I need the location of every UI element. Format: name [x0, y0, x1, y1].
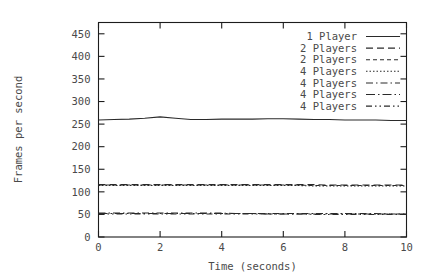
legend-label-3: 4 Players — [300, 65, 357, 77]
x-tick-label: 2 — [157, 241, 163, 253]
x-tick-label: 6 — [280, 241, 286, 253]
plot-area: 050100150200250300350400450 0246810 1 Pl… — [0, 0, 426, 276]
y-tick-label: 400 — [72, 50, 91, 62]
y-tick-label: 100 — [72, 186, 91, 198]
legend-label-5: 4 Players — [300, 88, 357, 100]
legend-label-2: 2 Players — [300, 53, 357, 65]
y-tick-label: 350 — [72, 73, 91, 85]
legend-label-4: 4 Players — [300, 77, 357, 89]
y-tick-label: 250 — [72, 118, 91, 130]
y-axis-title: Frames per second — [12, 76, 24, 183]
y-tick-label: 150 — [72, 163, 91, 175]
x-tick-label: 10 — [400, 241, 413, 253]
fps-line-chart: 050100150200250300350400450 0246810 1 Pl… — [0, 0, 426, 276]
y-tick-label: 0 — [84, 231, 90, 243]
legend-label-6: 4 Players — [300, 100, 357, 112]
legend-label-0: 1 Player — [306, 30, 357, 42]
x-tick-label: 4 — [219, 241, 225, 253]
y-tick-label: 300 — [72, 95, 91, 107]
legend-label-1: 2 Players — [300, 42, 357, 54]
chart-background — [0, 0, 426, 276]
y-tick-label: 200 — [72, 140, 91, 152]
y-tick-label: 50 — [78, 208, 91, 220]
y-tick-label: 450 — [72, 28, 91, 40]
x-tick-label: 0 — [95, 241, 101, 253]
x-axis-title: Time (seconds) — [208, 260, 297, 272]
x-tick-label: 8 — [342, 241, 348, 253]
